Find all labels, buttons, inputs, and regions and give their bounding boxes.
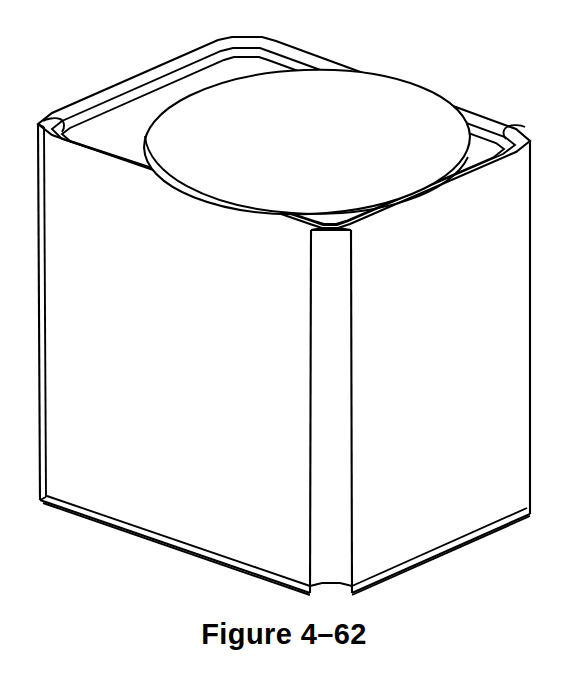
front-corner-chamfer-group (310, 228, 352, 594)
front-chamfer-right-edge (351, 230, 352, 593)
caption-row: Figure 4–62 (0, 610, 568, 679)
front-chamfer-left-edge (310, 230, 311, 593)
front-chamfer-fill (311, 228, 352, 594)
figure-caption: Figure 4–62 (201, 610, 367, 649)
isometric-drawing (0, 0, 568, 610)
figure-page: Figure 4–62 (0, 0, 568, 679)
drawing-area (0, 0, 568, 610)
